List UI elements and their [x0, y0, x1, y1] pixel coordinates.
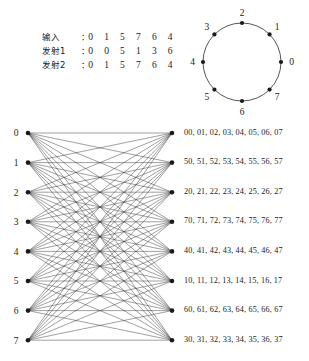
constellation-point-4: [201, 60, 205, 64]
trellis-state-label-6: 6: [14, 306, 19, 316]
trellis-node-left-3: [26, 220, 31, 225]
trellis-state-label-7: 7: [14, 336, 19, 346]
constellation-point-3: [212, 32, 216, 36]
constellation-label-5: 5: [205, 92, 210, 102]
constellation-point-6: [240, 99, 244, 103]
trellis-node-right-0: [170, 131, 175, 136]
trellis-node-left-4: [26, 249, 31, 254]
transition-row-7: 30, 31, 32, 33, 34, 35, 36, 37: [184, 335, 283, 344]
trellis-node-left-5: [26, 279, 31, 284]
trellis-canvas: 01234567: [0, 120, 185, 355]
trellis-state-label-4: 4: [14, 247, 19, 257]
trellis-node-left-1: [26, 160, 31, 165]
trellis-node-right-5: [170, 279, 175, 284]
trellis-node-right-4: [170, 249, 175, 254]
constellation-label-0: 0: [289, 57, 294, 67]
trellis-node-right-7: [170, 338, 175, 343]
symbol-row-label: 输入: [42, 30, 81, 42]
constellation-label-2: 2: [240, 8, 245, 18]
constellation-point-2: [240, 21, 244, 25]
symbol-row-colon: ：: [81, 58, 88, 70]
trellis-node-right-1: [170, 160, 175, 165]
trellis-edge-group: [28, 133, 172, 340]
constellation-point-0: [279, 60, 283, 64]
trellis-node-left-2: [26, 190, 31, 195]
transition-row-0: 00, 01, 02, 03, 04, 05, 06, 07: [184, 128, 283, 137]
transition-row-6: 60, 61, 62, 63, 64, 65, 66, 67: [184, 305, 283, 314]
transition-row-2: 20, 21, 22, 23, 24, 25, 26, 27: [184, 187, 283, 196]
symbol-row-colon: ：: [81, 44, 88, 56]
transition-label-list: 00, 01, 02, 03, 04, 05, 06, 0750, 51, 52…: [184, 120, 309, 355]
trellis-node-right-6: [170, 308, 175, 313]
trellis-node-right-3: [170, 220, 175, 225]
constellation-point-5: [212, 87, 216, 91]
trellis-state-label-3: 3: [14, 217, 19, 227]
figure-root: 输入 ： 0 1 5 7 6 4 发射1 ： 0 0 5 1 3 6 发射2 ：…: [0, 0, 309, 361]
transition-row-4: 40, 41, 42, 43, 44, 45, 46, 47: [184, 246, 283, 255]
trellis-state-label-0: 0: [14, 128, 19, 138]
symbol-row-digits: 0 1 5 7 6 4: [88, 32, 177, 42]
symbol-row-input: 输入 ： 0 1 5 7 6 4: [42, 30, 177, 44]
symbol-sequence-table: 输入 ： 0 1 5 7 6 4 发射1 ： 0 0 5 1 3 6 发射2 ：…: [42, 30, 177, 72]
symbol-row-label: 发射2: [42, 58, 81, 70]
trellis-state-diagram: 01234567: [0, 120, 185, 355]
constellation-label-7: 7: [275, 92, 280, 102]
symbol-row-label: 发射1: [42, 44, 81, 56]
symbol-row-transmit-1: 发射1 ： 0 0 5 1 3 6: [42, 44, 177, 58]
trellis-node-left-0: [26, 131, 31, 136]
constellation-label-6: 6: [240, 107, 245, 117]
symbol-row-transmit-2: 发射2 ： 0 1 5 7 6 4: [42, 58, 177, 72]
constellation-point-7: [267, 87, 271, 91]
trellis-state-label-5: 5: [14, 276, 19, 286]
constellation-label-3: 3: [205, 22, 210, 32]
trellis-node-right-2: [170, 190, 175, 195]
trellis-state-label-2: 2: [14, 188, 19, 198]
trellis-node-left-7: [26, 338, 31, 343]
psk-constellation-diagram: 01234567: [186, 6, 298, 118]
transition-row-5: 10, 11, 12, 13, 14, 15, 16, 17: [184, 276, 282, 285]
transition-row-1: 50, 51, 52, 53, 54, 55, 56, 57: [184, 157, 283, 166]
constellation-canvas: 01234567: [186, 6, 298, 118]
trellis-node-left-6: [26, 308, 31, 313]
symbol-row-digits: 0 0 5 1 3 6: [88, 46, 177, 56]
symbol-row-digits: 0 1 5 7 6 4: [88, 60, 177, 70]
transition-row-3: 70, 71, 72, 73, 74, 75, 76, 77: [184, 216, 283, 225]
constellation-label-1: 1: [275, 22, 280, 32]
constellation-point-1: [267, 32, 271, 36]
constellation-label-4: 4: [190, 57, 195, 67]
symbol-row-colon: ：: [81, 30, 88, 42]
trellis-state-label-1: 1: [14, 158, 19, 168]
